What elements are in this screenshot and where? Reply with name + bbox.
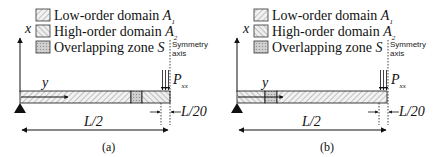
hatch-overlap-swatch-icon (36, 41, 50, 53)
legend-item-overlap: Overlapping zone S (36, 40, 164, 55)
dim-large-label: L/2 (83, 114, 103, 129)
pin-support-icon (231, 103, 243, 113)
dim-small-label: L/20 (398, 104, 425, 119)
load-arrows-icon (381, 70, 387, 90)
dim-small-label: L/20 (180, 104, 207, 119)
hatch-overlap-swatch-icon (254, 41, 268, 53)
load-label: Pxx (172, 72, 189, 90)
hatch-low-swatch-icon (254, 9, 268, 21)
symmetry-label: Symmetry (390, 40, 426, 49)
overlapping-zone (131, 91, 142, 103)
y-axis-label: y (260, 75, 269, 90)
load-label: Pxx (390, 72, 407, 90)
pin-support-icon (14, 103, 26, 113)
panel-b: Low-order domain A1 High-order domain A2… (231, 8, 426, 154)
symmetry-label: Symmetry (172, 40, 208, 49)
symmetry-label-axis: axis (172, 49, 186, 58)
low-order-domain (277, 91, 387, 103)
hatch-high-swatch-icon (36, 25, 50, 37)
dim-large-label: L/2 (301, 114, 321, 129)
hatch-low-swatch-icon (36, 9, 50, 21)
symmetry-label-axis: axis (390, 49, 404, 58)
x-axis-label: x (24, 21, 32, 36)
legend-item-overlap: Overlapping zone S (254, 40, 382, 55)
load-arrows-icon (163, 70, 169, 90)
figure: Low-order domain A1 High-order domain A2… (0, 0, 441, 157)
legend: Low-order domain A1 High-order domain A2… (36, 8, 178, 55)
caption-a: (a) (102, 140, 115, 154)
x-axis-label: x (242, 21, 250, 36)
hatch-high-swatch-icon (254, 25, 268, 37)
panel-a: Low-order domain A1 High-order domain A2… (14, 8, 208, 154)
legend: Low-order domain A1 High-order domain A2… (254, 8, 396, 55)
svg-text:Overlapping zone S: Overlapping zone S (272, 40, 382, 55)
high-order-domain (142, 91, 170, 103)
y-axis-label: y (40, 75, 49, 90)
svg-text:Overlapping zone S: Overlapping zone S (54, 40, 164, 55)
caption-b: (b) (320, 140, 334, 154)
